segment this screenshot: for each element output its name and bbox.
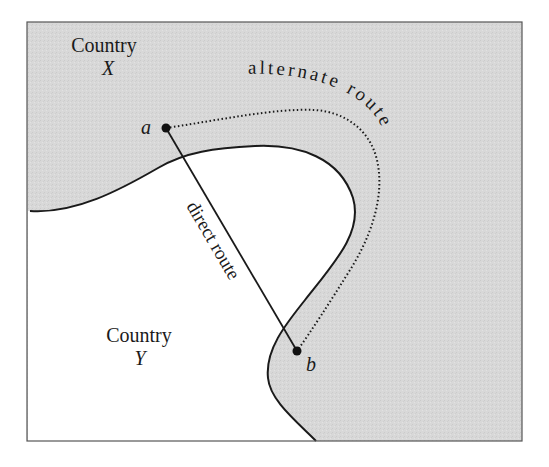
point-b-label: b bbox=[306, 353, 316, 375]
point-a-label: a bbox=[141, 116, 151, 138]
country-x-letter: X bbox=[101, 57, 115, 79]
country-y-label: Country bbox=[106, 324, 172, 347]
point-a-marker bbox=[162, 124, 171, 133]
country-y-letter: Y bbox=[134, 347, 147, 369]
country-x-label: Country bbox=[71, 34, 137, 57]
route-diagram: a b Country X Country Y direct route alt… bbox=[0, 0, 549, 467]
point-b-marker bbox=[293, 347, 302, 356]
